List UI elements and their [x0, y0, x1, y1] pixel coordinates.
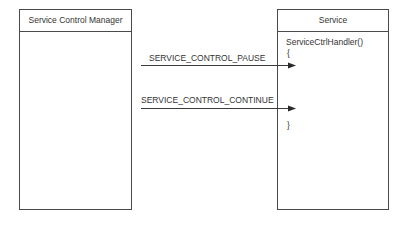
- message-label-continue: SERVICE_CONTROL_CONTINUE: [141, 95, 274, 105]
- service-control-manager-title: Service Control Manager: [20, 10, 131, 32]
- service-control-manager-box: Service Control Manager: [19, 9, 132, 210]
- arrow-continue: [141, 106, 296, 112]
- message-label-pause: SERVICE_CONTROL_PAUSE: [149, 53, 265, 63]
- handler-close-brace: }: [287, 120, 290, 130]
- handler-function-name: ServiceCtrlHandler(): [286, 37, 363, 47]
- service-title: Service: [278, 10, 388, 32]
- handler-open-brace: {: [287, 48, 290, 58]
- arrow-pause: [141, 63, 296, 69]
